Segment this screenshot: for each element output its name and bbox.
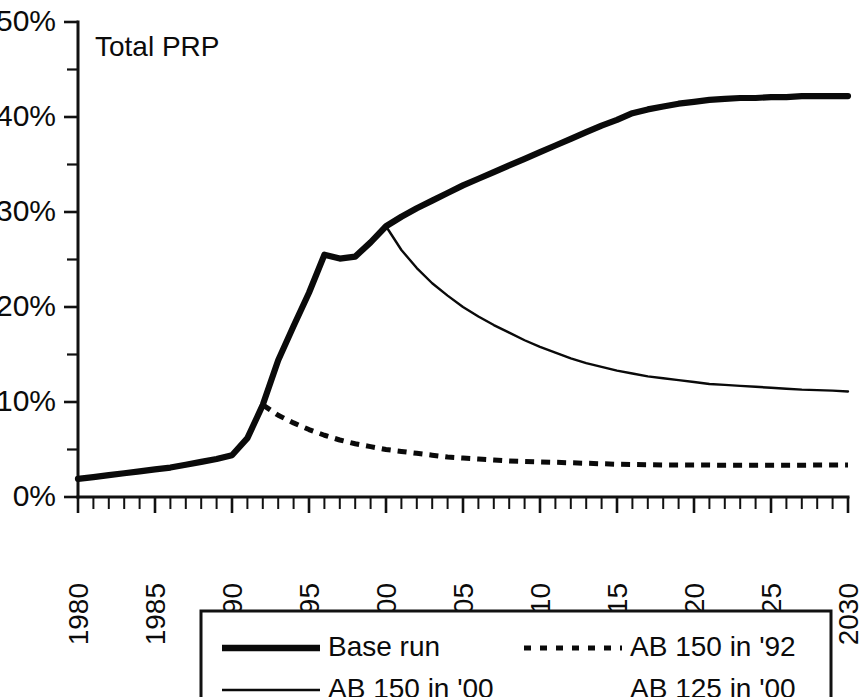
- x-axis-ticks: [78, 497, 848, 513]
- chart-title-group: Total PRP: [95, 31, 220, 62]
- y-axis-tick-label: 30%: [0, 194, 56, 227]
- y-axis-tick-label: 0%: [13, 479, 56, 512]
- chart-legend: Base runAB 150 in '92AB 150 in '00AB 125…: [201, 611, 831, 697]
- legend-label: Base run: [328, 631, 440, 662]
- chart-series-group: [78, 96, 848, 479]
- series-line-base-run: [78, 96, 848, 479]
- chart-axes: [78, 22, 848, 497]
- y-axis-tick-labels: 0%10%20%30%40%50%: [0, 4, 56, 512]
- legend-label: AB 150 in '92: [630, 631, 796, 662]
- y-axis-tick-label: 20%: [0, 289, 56, 322]
- y-axis-tick-label: 40%: [0, 99, 56, 132]
- y-axis-tick-label: 50%: [0, 4, 56, 37]
- x-axis-tick-label: 1985: [140, 583, 171, 645]
- total-prp-line-chart: Total PRP 0%10%20%30%40%50% 198019851990…: [0, 0, 863, 697]
- chart-figure: Total PRP 0%10%20%30%40%50% 198019851990…: [0, 0, 863, 697]
- chart-title: Total PRP: [95, 31, 220, 62]
- x-axis-tick-label: 1980: [63, 583, 94, 645]
- x-axis-tick-label: 2030: [833, 583, 863, 645]
- legend-label: AB 125 in '00: [630, 673, 796, 697]
- y-axis-ticks: [64, 22, 78, 497]
- y-axis-tick-label: 10%: [0, 384, 56, 417]
- series-line-ab150-92: [263, 405, 848, 465]
- legend-label: AB 150 in '00: [328, 673, 494, 697]
- series-line-ab150-00: [386, 226, 848, 391]
